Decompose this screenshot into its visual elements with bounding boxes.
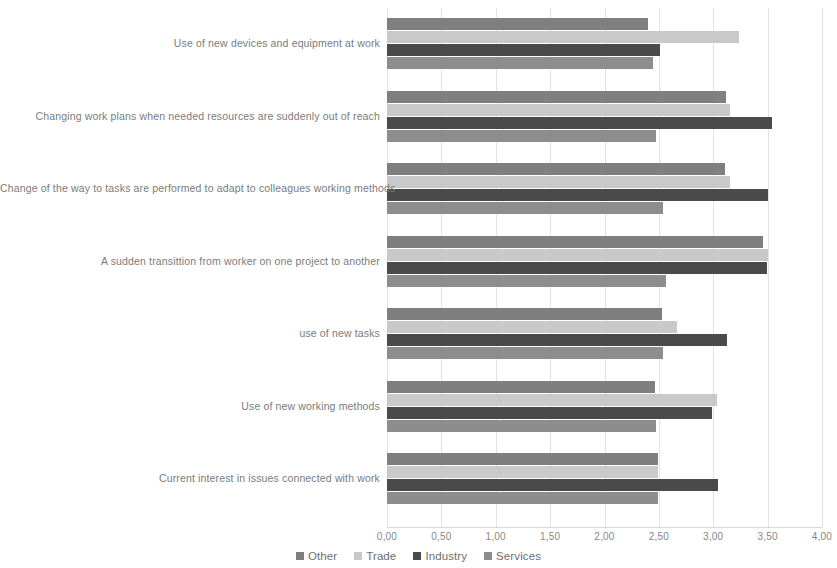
gridline-4-00 — [822, 8, 823, 527]
legend-swatch-icon — [354, 552, 362, 560]
bar-group — [387, 236, 822, 288]
bar-trade[interactable] — [387, 394, 717, 406]
chart-legend: OtherTradeIndustryServices — [0, 550, 837, 562]
bar-group — [387, 381, 822, 433]
plot-area — [387, 8, 822, 527]
bar-trade[interactable] — [387, 249, 768, 261]
bar-trade[interactable] — [387, 176, 730, 188]
bar-services[interactable] — [387, 420, 656, 432]
bar-other[interactable] — [387, 381, 655, 393]
category-label: Use of new devices and equipment at work — [0, 37, 380, 49]
x-tick-label: 2,00 — [594, 531, 614, 542]
bar-other[interactable] — [387, 163, 725, 175]
bar-group — [387, 163, 822, 215]
bar-trade[interactable] — [387, 321, 677, 333]
bar-other[interactable] — [387, 91, 726, 103]
category-label: Use of new working methods — [0, 400, 380, 412]
bar-industry[interactable] — [387, 407, 712, 419]
legend-label: Services — [496, 550, 541, 562]
legend-label: Industry — [425, 550, 467, 562]
bar-services[interactable] — [387, 492, 658, 504]
bar-industry[interactable] — [387, 479, 718, 491]
bar-services[interactable] — [387, 347, 663, 359]
x-tick-label: 1,50 — [540, 531, 560, 542]
bar-group — [387, 308, 822, 360]
bar-services[interactable] — [387, 275, 666, 287]
bar-trade[interactable] — [387, 104, 730, 116]
bar-industry[interactable] — [387, 334, 727, 346]
bar-other[interactable] — [387, 308, 662, 320]
bar-services[interactable] — [387, 57, 653, 69]
bar-group — [387, 453, 822, 505]
legend-label: Trade — [366, 550, 396, 562]
x-axis-line — [387, 527, 822, 528]
bar-industry[interactable] — [387, 189, 768, 201]
bar-industry[interactable] — [387, 44, 660, 56]
x-tick-label: 0,00 — [377, 531, 397, 542]
legend-label: Other — [308, 550, 337, 562]
x-tick-label: 0,50 — [431, 531, 451, 542]
category-label: use of new tasks — [0, 327, 380, 339]
category-label: Change of the way to tasks are performed… — [0, 182, 380, 194]
legend-item-other[interactable]: Other — [296, 550, 337, 562]
bar-services[interactable] — [387, 130, 656, 142]
legend-swatch-icon — [413, 552, 421, 560]
x-tick-label: 3,50 — [757, 531, 777, 542]
x-tick-label: 1,00 — [486, 531, 506, 542]
x-tick-label: 3,00 — [703, 531, 723, 542]
legend-item-services[interactable]: Services — [484, 550, 541, 562]
bar-other[interactable] — [387, 453, 658, 465]
bar-other[interactable] — [387, 18, 648, 30]
x-tick-label: 2,50 — [649, 531, 669, 542]
bar-other[interactable] — [387, 236, 763, 248]
bar-group — [387, 18, 822, 70]
bar-industry[interactable] — [387, 262, 767, 274]
bar-industry[interactable] — [387, 117, 772, 129]
x-tick-label: 4,00 — [812, 531, 832, 542]
category-label: A sudden transittion from worker on one … — [0, 255, 380, 267]
legend-item-trade[interactable]: Trade — [354, 550, 396, 562]
legend-swatch-icon — [296, 552, 304, 560]
bar-trade[interactable] — [387, 466, 658, 478]
legend-swatch-icon — [484, 552, 492, 560]
bar-trade[interactable] — [387, 31, 739, 43]
category-label: Changing work plans when needed resource… — [0, 110, 380, 122]
bar-services[interactable] — [387, 202, 663, 214]
legend-item-industry[interactable]: Industry — [413, 550, 467, 562]
bar-group — [387, 91, 822, 143]
category-label: Current interest in issues connected wit… — [0, 472, 380, 484]
bar-chart: Use of new devices and equipment at work… — [0, 0, 837, 568]
